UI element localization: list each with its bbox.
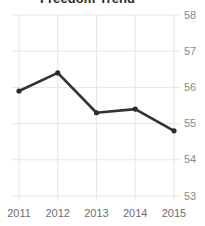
x-axis-tick-label: 2014	[115, 208, 155, 219]
line-chart: Freedom Trend 535455565758 2011201220132…	[0, 0, 205, 226]
data-point-marker	[55, 70, 60, 75]
x-axis-tick-label: 2012	[38, 208, 78, 219]
data-point-marker	[16, 88, 21, 93]
data-point-marker	[171, 128, 176, 133]
plot-area	[0, 0, 205, 226]
y-axis-tick-label: 53	[184, 191, 204, 202]
y-axis-tick-label: 57	[184, 46, 204, 57]
x-axis-tick-label: 2015	[154, 208, 194, 219]
vertical-gridlines	[19, 15, 174, 201]
y-axis-tick-label: 54	[184, 154, 204, 165]
y-axis-tick-label: 56	[184, 82, 204, 93]
data-point-marker	[94, 110, 99, 115]
x-axis-tick-label: 2011	[0, 208, 39, 219]
x-axis-tick-label: 2013	[77, 208, 117, 219]
y-axis-tick-label: 58	[184, 10, 204, 21]
y-axis-tick-label: 55	[184, 118, 204, 129]
data-point-marker	[133, 107, 138, 112]
